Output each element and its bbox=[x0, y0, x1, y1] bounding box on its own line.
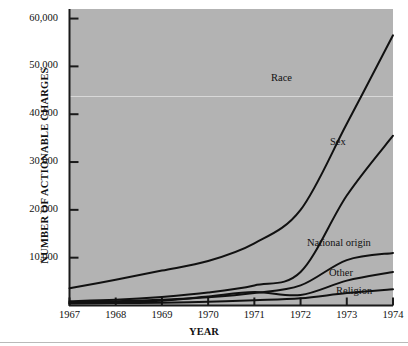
x-tick-label: 1967 bbox=[47, 309, 93, 320]
series-label-race: Race bbox=[271, 72, 292, 83]
series-label-sex: Sex bbox=[330, 136, 346, 147]
y-tick-label: 60,000 bbox=[0, 12, 58, 23]
y-tick-label: 10,000 bbox=[0, 251, 58, 262]
y-tick-label: 30,000 bbox=[0, 155, 58, 166]
x-tick-label: 1968 bbox=[93, 309, 139, 320]
y-tick-label: 50,000 bbox=[0, 59, 58, 70]
x-tick-label: 1972 bbox=[278, 309, 324, 320]
x-tick-label: 1969 bbox=[139, 309, 185, 320]
page-bottom-rule bbox=[0, 342, 408, 343]
series-label-national-origin: National origin bbox=[307, 237, 371, 248]
y-tick-label: 20,000 bbox=[0, 203, 58, 214]
x-tick-label: 1973 bbox=[324, 309, 370, 320]
series-label-other: Other bbox=[329, 267, 353, 278]
chart-figure: NUMBER OF ACTIONABLE CHARGES 60,00050,00… bbox=[0, 0, 408, 346]
x-axis-title: YEAR bbox=[0, 326, 408, 337]
series-label-religion: Religion bbox=[336, 285, 372, 296]
x-tick-label: 1974 bbox=[370, 309, 408, 320]
y-tick-label: 40,000 bbox=[0, 107, 58, 118]
x-tick-label: 1970 bbox=[185, 309, 231, 320]
x-tick-label: 1971 bbox=[231, 309, 277, 320]
